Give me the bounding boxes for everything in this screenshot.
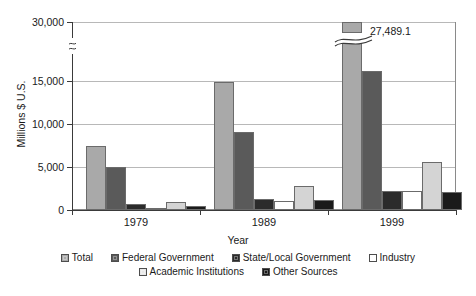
legend-swatch-federal [111,254,119,262]
bar-1999-other [442,192,462,210]
bar-1989-industry [274,201,294,210]
chart-legend: Total Federal Government State/Local Gov… [0,252,476,280]
y-tick-label-0: 0 [0,204,64,216]
legend-label-academic: Academic Institutions [150,266,245,277]
bar-1979-state-local [126,204,146,210]
legend-label-industry: Industry [380,252,416,263]
y-tick-label-10000: 10,000 [0,118,64,130]
legend-item-state-local: State/Local Government [232,252,351,263]
legend-swatch-other [262,268,270,276]
legend-row-2: Academic Institutions Other Sources [0,266,476,277]
bar-1989-other [314,200,334,210]
legend-item-federal: Federal Government [111,252,214,263]
x-axis-line [72,210,456,211]
legend-item-other: Other Sources [262,266,337,277]
x-tick-sep-1 [200,210,201,215]
legend-swatch-academic [139,268,147,276]
bar-1979-total [86,146,106,210]
legend-swatch-industry [369,254,377,262]
legend-swatch-total [61,254,69,262]
x-category-1989: 1989 [200,216,328,228]
legend-item-industry: Industry [369,252,416,263]
bar-1999-industry [402,191,422,210]
legend-item-total: Total [61,252,93,263]
bar-1989-academic [294,186,314,210]
x-category-1979: 1979 [72,216,200,228]
bars-layer [72,22,456,210]
legend-row-1: Total Federal Government State/Local Gov… [0,252,476,263]
bar-1989-total [214,82,234,210]
bar-1979-other [186,206,206,210]
value-label-1999-total: 27,489.1 [370,25,411,37]
bar-chart-figure: 30,000 15,000 10,000 5,000 0 Millions $ … [0,0,476,296]
bar-1979-industry [146,208,166,210]
x-category-1999: 1999 [328,216,456,228]
bar-1989-state-local [254,199,274,210]
y-tick-label-30000: 30,000 [0,16,64,28]
bar-1999-state-local [382,191,402,210]
legend-label-total: Total [72,252,93,263]
bar-1979-federal [106,167,126,210]
bar-1979-academic [166,202,186,210]
x-axis-title: Year [0,234,476,246]
bar-1989-federal [234,132,254,210]
legend-swatch-state-local [232,254,240,262]
legend-label-other: Other Sources [273,266,337,277]
legend-label-federal: Federal Government [122,252,214,263]
y-tick-label-5000: 5,000 [0,161,64,173]
bar-1999-federal [362,71,382,210]
legend-item-academic: Academic Institutions [139,266,245,277]
y-tick-label-15000: 15,000 [0,75,64,87]
bar-1999-total [342,43,362,210]
y-axis-title: Millions $ U.S. [15,49,27,179]
x-tick-sep-2 [328,210,329,215]
x-tick-start [72,210,73,215]
bar-break-icon [334,31,374,47]
x-tick-end [456,210,457,215]
legend-label-state-local: State/Local Government [243,252,351,263]
bar-1999-academic [422,162,442,210]
